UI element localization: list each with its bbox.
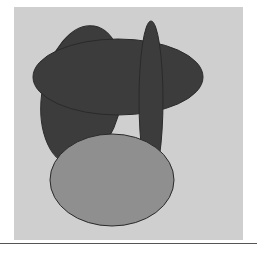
- light-ellipse: [50, 134, 174, 226]
- dark-ellipse-wide: [33, 39, 203, 115]
- divider-line: [0, 243, 257, 244]
- figure-canvas: [0, 0, 257, 261]
